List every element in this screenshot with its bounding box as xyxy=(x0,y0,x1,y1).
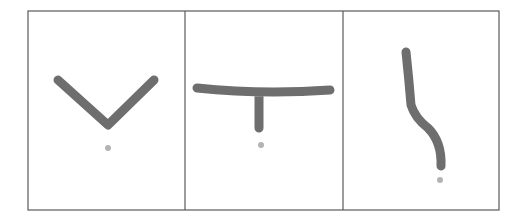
t-shape-dot xyxy=(258,142,264,148)
v-shape-dot xyxy=(105,145,111,151)
panel-v-shape xyxy=(58,80,154,151)
s-curve-stroke xyxy=(406,52,441,166)
s-curve-dot xyxy=(437,177,443,183)
t-shape-stroke xyxy=(197,88,330,128)
panel-t-shape xyxy=(197,88,330,148)
gesture-diagram xyxy=(0,0,522,223)
panel-s-curve xyxy=(406,52,443,183)
v-shape-stroke xyxy=(58,80,154,125)
